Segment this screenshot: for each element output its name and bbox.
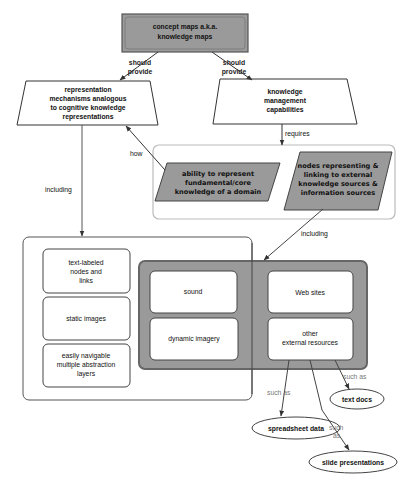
label-such-as-text-docs: such as (343, 373, 367, 380)
external-sources-line4: information sources (301, 189, 376, 197)
representation-line3: to cognitive knowledge (50, 104, 125, 112)
label-such-as-spreadsheet: such as (267, 389, 291, 396)
representation-line4: representations (63, 113, 114, 121)
other-external-line1: other (302, 330, 318, 337)
label-including-left: including (45, 186, 72, 194)
representation-line2: mechanisms analogous (49, 95, 126, 103)
root-label-line1: concept maps a.k.a. (153, 23, 218, 31)
label-how: how (130, 150, 143, 157)
text-labeled-line3: links (79, 277, 93, 284)
ability-node[interactable]: ability to represent fundamental/core kn… (155, 163, 280, 201)
label-should-right-1: should (223, 59, 245, 66)
external-sources-line3: knowledge sources & (298, 180, 378, 188)
label-should-left-1: should (129, 59, 151, 66)
sound-label: sound (184, 288, 203, 295)
web-sites-label: Web sites (295, 289, 325, 296)
concept-map-diagram: concept maps a.k.a. knowledge maps repre… (0, 0, 413, 492)
km-line1: knowledge (267, 88, 302, 96)
navigable-line3: layers (77, 370, 96, 378)
slide-presentations-node[interactable]: slide presentations (309, 451, 397, 473)
text-labeled-line1: text-labeled (68, 259, 103, 266)
static-images-node[interactable]: static images (43, 297, 130, 340)
navigable-line2: multiple abstraction (57, 361, 116, 369)
ability-line3: knowledge of a domain (175, 188, 262, 196)
external-sources-line2: linking to external (304, 171, 373, 179)
km-line2: management (264, 97, 307, 105)
ability-line2: fundamental/core (185, 179, 251, 187)
label-should-right-2: provide (222, 68, 247, 76)
ability-line1: ability to represent (182, 170, 254, 178)
root-label-line2: knowledge maps (158, 33, 213, 41)
label-such-as-slides-2: as (333, 432, 341, 439)
label-requires: requires (285, 130, 310, 138)
knowledge-management-node[interactable]: knowledge management capabilities (213, 79, 357, 124)
text-labeled-line2: nodes and (70, 268, 102, 275)
link-should-provide-left (120, 52, 158, 80)
text-docs-node[interactable]: text docs (330, 389, 384, 409)
navigable-layers-node[interactable]: easily navigable multiple abstraction la… (43, 344, 130, 387)
label-should-left-2: provide (128, 68, 153, 76)
slides-label: slide presentations (322, 459, 384, 467)
representation-line1: representation (64, 86, 111, 94)
dynamic-imagery-node[interactable]: dynamic imagery (150, 318, 238, 360)
external-sources-node[interactable]: nodes representing & linking to external… (284, 152, 392, 210)
spreadsheet-data-node[interactable]: spreadsheet data (252, 417, 340, 439)
spreadsheet-label: spreadsheet data (268, 425, 324, 433)
dynamic-imagery-label: dynamic imagery (168, 335, 220, 343)
web-sites-node[interactable]: Web sites (268, 271, 353, 313)
other-external-resources-node[interactable]: other external resources (268, 318, 353, 360)
root-node[interactable]: concept maps a.k.a. knowledge maps (122, 14, 248, 52)
km-line3: capabilities (266, 106, 303, 114)
other-external-line2: external resources (282, 339, 339, 346)
link-should-provide-right (212, 52, 252, 80)
sound-node[interactable]: sound (150, 271, 237, 313)
label-including-right: including (301, 230, 328, 238)
label-such-as-slides-1: such (329, 424, 344, 431)
navigable-line1: easily navigable (62, 352, 111, 360)
static-images-label: static images (66, 315, 106, 323)
external-sources-line1: nodes representing & (298, 162, 379, 170)
representation-node[interactable]: representation mechanisms analogous to c… (17, 81, 158, 125)
text-labeled-node[interactable]: text-labeled nodes and links (43, 249, 130, 293)
text-docs-label: text docs (342, 396, 372, 403)
